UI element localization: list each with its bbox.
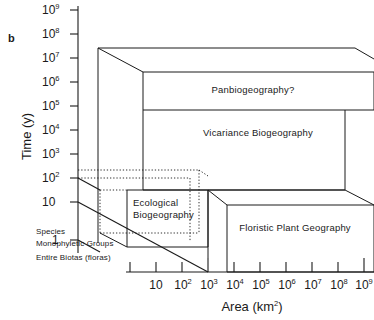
y-axis-title: Time (y) [20, 113, 33, 160]
box-label-panbiogeography: Panbiogeography? [212, 85, 295, 95]
x-tick-label: 104 [226, 278, 244, 291]
figure-panel-b: b Time (y) 109 108 107 106 105 104 103 1… [0, 0, 374, 320]
y-tick-label: 108 [42, 27, 60, 40]
x-tick-label: 109 [355, 278, 373, 291]
y-tick-label: 109 [42, 3, 60, 16]
z-axis-label-species: Species [36, 228, 65, 236]
box-label-vicariance-biogeography: Vicariance Biogeography [203, 128, 313, 138]
x-tick-label: 106 [278, 278, 296, 291]
box-label-ecological-biogeography-line2: Biogeography [133, 210, 194, 220]
panel-label: b [8, 33, 15, 44]
x-tick-label: 108 [330, 278, 348, 291]
diagram-canvas [0, 0, 374, 320]
box-label-ecological-biogeography-line1: Ecological [133, 198, 178, 208]
z-axis-label-monophyletic-groups: Monophyletic Groups [36, 240, 114, 248]
x-tick-label: 103 [200, 278, 218, 291]
box-label-floristic-plant-geography: Floristic Plant Geography [239, 223, 351, 233]
y-tick-label: 102 [42, 171, 60, 184]
y-tick-label: 10 [42, 195, 55, 208]
x-tick-label: 10 [149, 278, 162, 291]
x-tick-label: 105 [252, 278, 270, 291]
y-tick-label: 107 [42, 51, 60, 64]
box-vicariance-biogeography [143, 110, 374, 205]
y-tick-label: 105 [42, 99, 60, 112]
y-tick-label: 104 [42, 123, 60, 136]
y-tick-label: 103 [42, 147, 60, 160]
y-axis [70, 6, 78, 253]
x-axis-title: Area (km2) [221, 300, 282, 313]
x-tick-label: 107 [304, 278, 322, 291]
x-tick-label: 102 [174, 278, 192, 291]
box-panbiogeography [98, 48, 374, 110]
y-tick-label: 106 [42, 75, 60, 88]
x-axis [126, 258, 374, 272]
z-axis-label-entire-biotas: Entire Biotas (floras) [36, 254, 111, 262]
